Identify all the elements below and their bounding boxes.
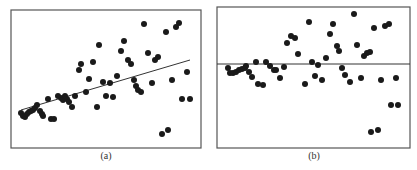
data-point — [78, 61, 84, 67]
data-point — [295, 51, 301, 57]
data-point — [351, 11, 357, 17]
data-point — [72, 93, 78, 99]
data-point — [309, 59, 315, 65]
data-point — [187, 96, 193, 102]
caption-a: (a) — [86, 150, 126, 161]
data-point — [292, 35, 298, 41]
data-point — [83, 89, 89, 95]
data-point — [45, 96, 51, 102]
data-point — [34, 102, 40, 108]
data-point — [330, 21, 336, 27]
data-point — [306, 19, 312, 25]
data-point — [375, 127, 381, 133]
data-point — [284, 40, 290, 46]
data-point — [121, 38, 127, 44]
regression-line — [21, 60, 190, 110]
data-point — [118, 48, 124, 54]
data-point — [40, 113, 46, 119]
data-point — [260, 82, 266, 88]
data-point — [393, 75, 399, 81]
data-point — [100, 79, 106, 85]
data-point — [131, 77, 137, 83]
data-point — [163, 29, 169, 35]
data-point — [94, 104, 100, 110]
data-point — [145, 50, 151, 56]
data-point — [51, 116, 57, 122]
data-point — [165, 127, 171, 133]
data-point — [339, 65, 345, 71]
data-point — [273, 67, 279, 73]
data-point — [107, 80, 113, 86]
data-point — [281, 64, 287, 70]
scatter-panel-b — [217, 7, 410, 148]
data-point — [179, 96, 185, 102]
data-point — [323, 55, 329, 61]
data-point — [243, 63, 249, 69]
data-point — [354, 42, 360, 48]
data-point — [249, 74, 255, 80]
data-point — [302, 81, 308, 87]
data-point — [155, 54, 161, 60]
data-point — [336, 48, 342, 54]
data-point — [66, 99, 72, 105]
data-point — [128, 61, 134, 67]
data-point — [312, 73, 318, 79]
data-point — [96, 42, 102, 48]
data-point — [315, 62, 321, 68]
data-point — [255, 81, 261, 87]
data-point — [90, 59, 96, 65]
data-point — [246, 69, 252, 75]
data-point — [277, 75, 283, 81]
data-point — [176, 20, 182, 26]
data-point — [253, 59, 259, 65]
data-point — [141, 21, 147, 27]
data-point — [327, 31, 333, 37]
data-point — [371, 25, 377, 31]
data-point — [386, 21, 392, 27]
data-point — [184, 69, 190, 75]
data-point — [86, 76, 92, 82]
data-point — [149, 80, 155, 86]
data-point — [347, 79, 353, 85]
data-point — [110, 94, 116, 100]
data-point — [368, 129, 374, 135]
scatter-panel-a — [11, 10, 201, 148]
data-point — [69, 104, 75, 110]
data-point — [342, 72, 348, 78]
data-point — [114, 73, 120, 79]
data-point — [378, 77, 384, 83]
data-point — [395, 102, 401, 108]
data-point — [169, 77, 175, 83]
data-point — [319, 77, 325, 83]
data-point — [76, 67, 82, 73]
caption-b: (b) — [294, 150, 334, 161]
data-point — [367, 49, 373, 55]
data-point — [159, 131, 165, 137]
figure-canvas — [0, 0, 417, 170]
data-point — [358, 75, 364, 81]
data-point — [138, 89, 144, 95]
data-point — [103, 93, 109, 99]
data-point — [388, 102, 394, 108]
